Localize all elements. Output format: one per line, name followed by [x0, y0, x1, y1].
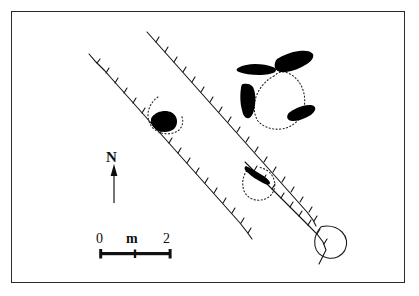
scale-bar-unit-label: m: [126, 232, 138, 246]
north-arrow-label: N: [106, 150, 117, 165]
plan-frame-border: [11, 11, 405, 283]
scale-bar-end-label: 2: [163, 232, 170, 246]
scale-bar-start-label: 0: [96, 232, 103, 246]
site-plan-figure: N 0 m 2: [0, 0, 419, 296]
